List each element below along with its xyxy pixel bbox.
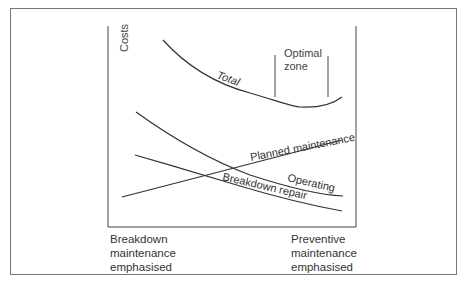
y-axis-label: Costs <box>118 23 130 52</box>
x-label-left-line1: Breakdown <box>110 232 176 246</box>
x-label-right-line2: maintenance <box>291 246 357 260</box>
planned-maintenance-label: Planned maintenance <box>249 131 356 163</box>
total-label: Total <box>215 69 242 88</box>
x-label-right-line3: emphasised <box>291 260 357 274</box>
x-label-left-line2: maintenance <box>110 246 176 260</box>
optimal-zone-label-2: zone <box>284 60 308 72</box>
x-label-left: Breakdown maintenance emphasised <box>110 232 176 274</box>
x-label-right-line1: Preventive <box>291 232 357 246</box>
x-label-left-line3: emphasised <box>110 260 176 274</box>
cost-chart: Costs Total Optimal zone Operating Plann… <box>0 0 465 282</box>
optimal-zone-label-1: Optimal <box>284 47 322 59</box>
x-label-right: Preventive maintenance emphasised <box>291 232 357 274</box>
